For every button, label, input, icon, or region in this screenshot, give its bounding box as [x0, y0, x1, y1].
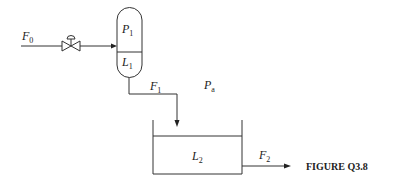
label-l1: L1 — [121, 55, 133, 71]
open-tank: L2 — [153, 120, 242, 174]
outlet-stream: F2 — [242, 148, 291, 169]
control-valve-icon — [62, 36, 80, 52]
figure-caption: FIGURE Q3.8 — [306, 161, 368, 172]
pressurized-vessel: P1 L1 — [117, 7, 142, 77]
label-f2: F2 — [258, 148, 270, 164]
label-pa: Pa — [203, 78, 215, 94]
process-diagram: F0 P1 L1 F1 Pa L2 F2 FIGURE Q3.8 — [0, 0, 395, 186]
label-p1: P1 — [121, 22, 133, 38]
label-f1: F1 — [149, 79, 161, 95]
label-f0: F0 — [21, 29, 33, 45]
transfer-pipe: F1 — [129, 78, 180, 128]
label-l2: L2 — [191, 149, 203, 165]
